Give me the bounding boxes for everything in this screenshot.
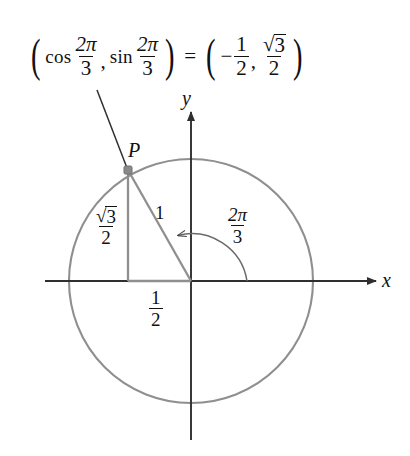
rhs-x-numerator: 1 [234, 34, 249, 56]
point-p-marker [124, 166, 132, 174]
horizontal-leg-label: 1 2 [149, 288, 163, 329]
y-axis-label: y [182, 88, 191, 108]
angle-denominator: 3 [231, 225, 245, 246]
rhs-y-radicand: 3 [274, 34, 287, 56]
hypotenuse-length-label: 1 [155, 203, 165, 222]
equation-close-paren: ) [165, 38, 175, 74]
angle-numerator: 2π [226, 205, 249, 225]
equation-open-paren: ( [31, 38, 41, 74]
rhs-y-fraction: 3 2 [260, 33, 288, 79]
sin-arg-numerator: 2π [135, 34, 160, 56]
x-axis-label: x [382, 270, 391, 290]
rhs-y-numerator-radical: 3 [260, 33, 288, 56]
horizontal-leg-denominator: 2 [149, 308, 163, 329]
cos-function-label: cos [45, 47, 71, 66]
angle-label: 2π 3 [226, 205, 249, 246]
rhs-open-paren: ( [206, 38, 216, 74]
figure-canvas: ( cos 2π 3 , sin 2π 3 ) = ( − 1 2 , 3 2 … [0, 0, 410, 456]
rhs-x-fraction: 1 2 [234, 34, 249, 79]
equation-comma: , [101, 51, 106, 72]
triangle-hypotenuse [128, 170, 191, 281]
vertical-leg-radicand: 3 [105, 206, 117, 226]
horizontal-leg-numerator: 1 [149, 288, 163, 308]
sin-argument-fraction: 2π 3 [135, 34, 160, 79]
rhs-minus-sign: − [220, 46, 232, 67]
sin-arg-denominator: 3 [140, 56, 155, 79]
cos-arg-denominator: 3 [79, 56, 94, 79]
rhs-y-denominator: 2 [267, 56, 282, 79]
coordinate-equation: ( cos 2π 3 , sin 2π 3 ) = ( − 1 2 , 3 2 … [28, 33, 305, 79]
vertical-leg-label: 3 2 [93, 205, 119, 247]
equals-sign: = [184, 46, 196, 67]
vertical-leg-numerator-radical: 3 [93, 205, 119, 226]
rhs-x-denominator: 2 [234, 56, 249, 79]
leader-line [97, 90, 127, 168]
rhs-comma: , [251, 51, 256, 72]
rhs-close-paren: ) [293, 38, 303, 74]
sin-function-label: sin [110, 47, 133, 66]
cos-arg-numerator: 2π [74, 34, 99, 56]
point-p-label: P [128, 140, 140, 160]
cos-argument-fraction: 2π 3 [74, 34, 99, 79]
vertical-leg-denominator: 2 [99, 226, 113, 247]
